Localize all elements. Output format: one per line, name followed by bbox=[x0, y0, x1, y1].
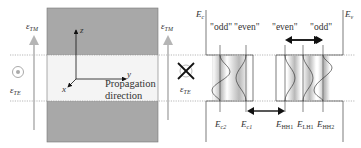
propagation-label-line2: direction bbox=[105, 91, 142, 102]
axis-z-label: z bbox=[80, 26, 84, 35]
tm-arrow-right bbox=[163, 35, 173, 120]
epsilon-te-right-label: εTE bbox=[180, 85, 191, 95]
lower-cladding bbox=[47, 101, 158, 142]
axis-x-label: x bbox=[62, 85, 66, 94]
tm-arrow-left bbox=[29, 35, 39, 130]
cross-icon bbox=[178, 63, 194, 79]
ec-edge-label: Ec bbox=[196, 10, 204, 20]
propagation-label-line1: Propagation bbox=[105, 79, 156, 90]
parity-label-even-v: "even" bbox=[272, 23, 298, 33]
level-lh1-label: ELH1 bbox=[297, 120, 314, 130]
level-ec1-label: Ec1 bbox=[241, 120, 252, 130]
upper-cladding bbox=[47, 8, 158, 55]
epsilon-te-left-label: εTE bbox=[10, 86, 21, 96]
circle-dot-icon bbox=[13, 67, 24, 78]
parity-label-even-c: "even" bbox=[234, 23, 260, 33]
waveguide-structure bbox=[47, 8, 158, 142]
level-ec2-label: Ec2 bbox=[215, 120, 226, 130]
level-hh2-label: EHH2 bbox=[317, 120, 334, 130]
epsilon-tm-right-label: εTM bbox=[161, 22, 173, 32]
parity-label-odd-c: "odd" bbox=[210, 23, 232, 33]
parity-label-odd-v: "odd" bbox=[310, 23, 332, 33]
level-hh1-label: EHH1 bbox=[276, 120, 293, 130]
ev-edge-label: Ev bbox=[345, 10, 353, 20]
epsilon-tm-left-label: εTM bbox=[26, 22, 38, 32]
